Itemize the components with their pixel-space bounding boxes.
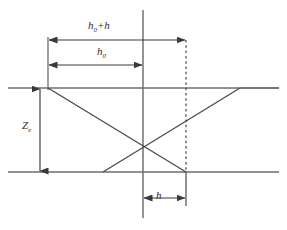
descending-diagonal-ray xyxy=(48,88,186,172)
ascending-diagonal-ray xyxy=(103,88,240,172)
label-h0-sub: 0 xyxy=(103,52,106,59)
label-h0-plus-h: h0+h xyxy=(88,20,110,34)
label-ze-sub: e xyxy=(28,126,31,133)
label-h: h xyxy=(156,190,162,201)
label-h0-plus-h-suffix: +h xyxy=(97,19,110,31)
label-ze: Ze xyxy=(22,120,31,134)
diagram-canvas: h0+h h0 Ze h xyxy=(0,0,287,230)
diagram-svg xyxy=(0,0,287,230)
label-h0: h0 xyxy=(97,46,106,60)
